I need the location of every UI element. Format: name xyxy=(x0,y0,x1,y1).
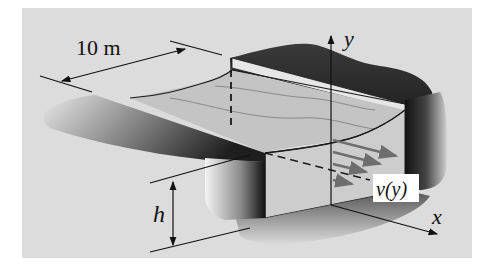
velocity-label: v(y) xyxy=(376,178,407,201)
width-label: 10 m xyxy=(76,35,121,60)
y-axis-label: y xyxy=(342,26,354,51)
x-axis-label: x xyxy=(431,204,442,229)
channel-flow-diagram: 10 m h v(y) x y xyxy=(0,0,499,264)
depth-label: h xyxy=(153,201,165,227)
